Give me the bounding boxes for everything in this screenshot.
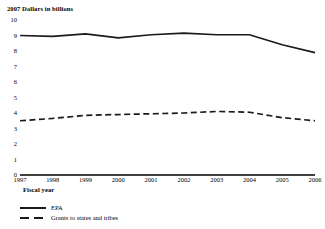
x-tick-label: 1998 [46,177,59,184]
x-tick-label: 1999 [79,177,92,184]
y-tick-label: 5 [14,94,17,101]
legend-item-grants: Grants to states and tribes [20,213,118,223]
y-tick-label: 1 [14,156,17,163]
x-tick-label: 2006 [309,177,322,184]
y-tick-label: 2 [14,141,17,148]
y-tick-label: 10 [11,17,18,24]
legend-item-epa: EPA [20,203,118,213]
y-tick-label: 6 [14,79,17,86]
series-line-grants [20,111,315,120]
y-tick-label: 3 [14,125,17,132]
x-tick-label: 2005 [276,177,289,184]
legend-swatch-solid [20,204,46,212]
y-axis-title: 2007 Dollars in billions [7,5,73,12]
x-tick-label: 2001 [145,177,158,184]
series-line-epa [20,33,315,52]
x-tick-label: 2003 [210,177,223,184]
chart-legend: EPA Grants to states and tribes [20,203,118,223]
legend-swatch-dashed [20,214,46,222]
x-tick-label: 2002 [177,177,190,184]
y-tick-label: 8 [14,48,17,55]
chart-figure: 2007 Dollars in billions 012345678910 19… [0,0,325,229]
x-axis-title: Fiscal year [23,186,54,193]
y-tick-label: 9 [14,32,17,39]
x-tick-label: 2000 [112,177,125,184]
legend-label-grants: Grants to states and tribes [51,215,118,222]
chart-lines [20,20,315,175]
x-tick-label: 1997 [14,177,27,184]
y-tick-label: 4 [14,110,17,117]
plot-area: 012345678910 199719981999200020012002200… [20,20,315,175]
x-tick-label: 2004 [243,177,256,184]
legend-label-epa: EPA [51,205,63,212]
y-tick-label: 7 [14,63,17,70]
